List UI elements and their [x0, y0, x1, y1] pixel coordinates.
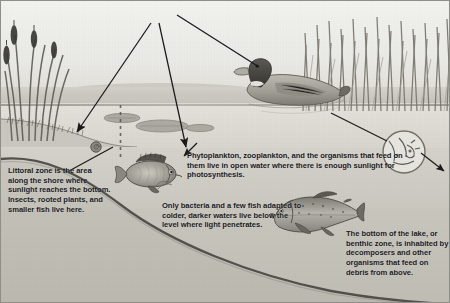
callout-plankton-body: Phytoplankton, zooplankton, and the orga… — [187, 151, 403, 179]
sunlight-ray-right — [177, 15, 259, 67]
lake-zones-diagram: Sunlight Littoral zone is the area along… — [0, 0, 450, 303]
callout-benthic-zone: The bottom of the lake, or benthic zone,… — [346, 229, 449, 278]
callout-deep-water: Only bacteria and a few fish adapted to … — [162, 201, 302, 230]
callout-benthic-heading: benthic zone — [346, 239, 392, 248]
callout-benthic-before: The bottom of the lake, or — [346, 229, 438, 238]
leader-surface-to-inset — [331, 113, 387, 141]
leader-inset-arrow — [421, 153, 444, 171]
callout-littoral-heading: Littoral zone — [8, 166, 53, 175]
callout-deepfish-body: Only bacteria and a few fish adapted to … — [162, 201, 301, 229]
callout-littoral-zone: Littoral zone is the area along the shor… — [8, 166, 112, 215]
sunlight-ray-center — [159, 23, 186, 147]
sunlight-ray-left — [77, 23, 151, 132]
callout-plankton: Phytoplankton, zooplankton, and the orga… — [187, 151, 409, 180]
